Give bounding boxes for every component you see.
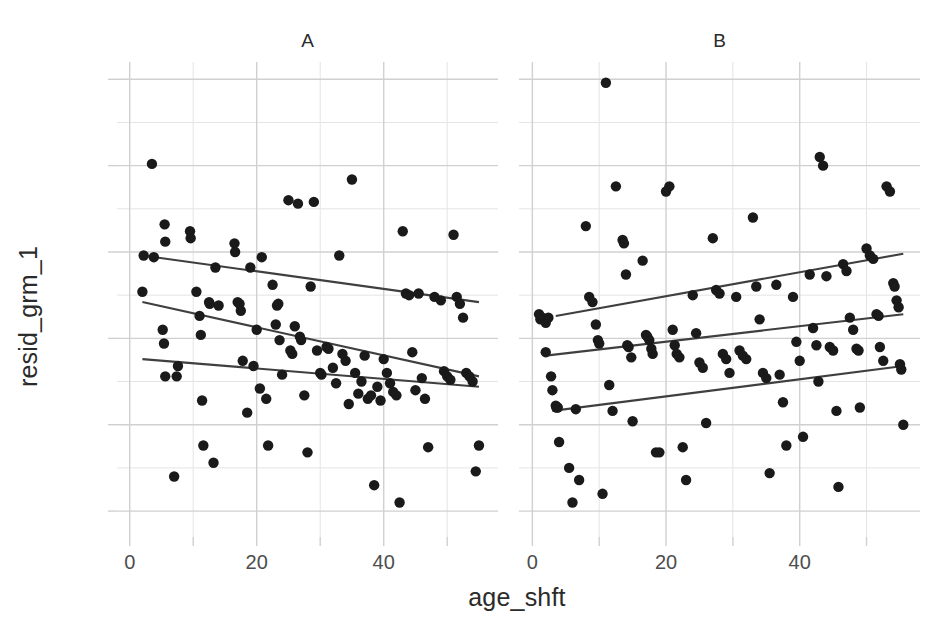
x-tick-label: 0 bbox=[124, 551, 135, 574]
chart-figure: resid_grm_1 age_shft −100−50050100150 02… bbox=[0, 0, 936, 633]
panel-strip-b: B bbox=[519, 30, 920, 52]
x-tick-label: 20 bbox=[246, 551, 268, 574]
x-tick-label: 40 bbox=[789, 551, 811, 574]
panel-strip-a: A bbox=[117, 30, 498, 52]
x-tick-labels: 0204002040 bbox=[0, 0, 936, 633]
x-tick-label: 40 bbox=[373, 551, 395, 574]
x-tick-label: 0 bbox=[527, 551, 538, 574]
x-tick-label: 20 bbox=[655, 551, 677, 574]
